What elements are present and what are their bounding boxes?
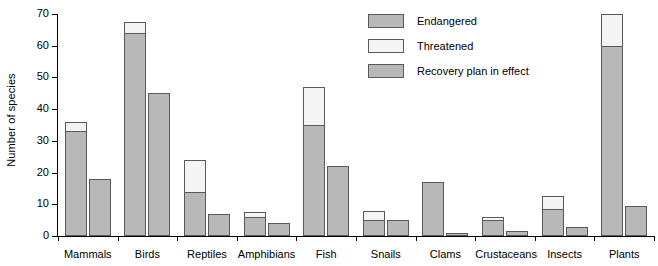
bar-recovery-plan-clams [446,233,468,236]
bar-recovery-plan-plants [625,206,647,236]
bar-recovery-plan-amphibians [268,223,290,236]
bar-segment-threatened [483,218,503,221]
y-tick-mark [52,204,57,205]
x-tick-mark [416,236,417,241]
bar-endangered-threatened-crustaceans [482,217,504,236]
bar-recovery-plan-snails [387,220,409,236]
x-tick-mark [118,236,119,241]
x-tick-mark [177,236,178,241]
bar-segment-threatened [364,212,384,222]
x-axis-label-mammals: Mammals [58,248,118,260]
bar-segment-threatened [185,161,205,193]
y-tick-label: 70 [9,7,49,19]
x-axis-label-amphibians: Amphibians [237,248,297,260]
bar-group-plants [594,14,654,236]
bar-segment-threatened [125,23,145,34]
legend-label: Recovery plan in effect [417,65,529,77]
y-tick-label: 40 [9,102,49,114]
x-axis-label-insects: Insects [535,248,595,260]
y-tick-mark [52,141,57,142]
bar-endangered-threatened-fish [303,87,325,236]
x-tick-mark [594,236,595,241]
legend-item-2: Recovery plan in effect [368,58,529,83]
legend-item-1: Threatened [368,33,529,58]
legend-swatch-icon [368,39,404,53]
legend-label: Endangered [417,15,477,27]
bar-group-fish [296,14,356,236]
bar-recovery-plan-reptiles [208,214,230,236]
bar-endangered-threatened-plants [601,14,623,236]
x-axis-label-clams: Clams [416,248,476,260]
bar-group-birds [118,14,178,236]
legend-item-0: Endangered [368,8,529,33]
y-tick-label: 20 [9,166,49,178]
y-tick-label: 0 [9,229,49,241]
plot-area: 010203040506070 MammalsBirdsReptilesAmph… [58,14,654,236]
x-tick-mark [535,236,536,241]
bar-segment-threatened [602,15,622,47]
x-tick-mark [475,236,476,241]
y-tick-label: 50 [9,70,49,82]
bar-endangered-threatened-birds [124,22,146,236]
y-tick-mark [52,77,57,78]
legend-swatch-icon [368,64,404,78]
bar-group-insects [535,14,595,236]
bar-recovery-plan-insects [566,227,588,237]
bar-endangered-threatened-clams [422,182,444,236]
x-axis-label-snails: Snails [356,248,416,260]
bar-recovery-plan-mammals [89,179,111,236]
bar-segment-threatened [543,197,563,210]
x-tick-mark [654,236,655,241]
bar-endangered-threatened-snails [363,211,385,236]
bar-recovery-plan-birds [148,93,170,236]
x-axis-label-fish: Fish [296,248,356,260]
bar-recovery-plan-crustaceans [506,231,528,236]
bar-endangered-threatened-insects [542,196,564,236]
y-axis-title-text: Number of species [5,73,17,166]
bar-segment-threatened [66,123,86,133]
x-axis-label-crustaceans: Crustaceans [475,248,535,260]
bar-group-reptiles [177,14,237,236]
legend-label: Threatened [417,40,473,52]
bar-endangered-threatened-amphibians [244,212,266,236]
x-axis-label-birds: Birds [118,248,178,260]
bar-segment-threatened [304,88,324,126]
y-tick-mark [52,46,57,47]
bar-group-amphibians [237,14,297,236]
x-tick-mark [237,236,238,241]
bar-segment-threatened [245,213,265,218]
y-tick-label: 60 [9,39,49,51]
y-tick-mark [52,236,57,237]
species-status-bar-chart: Number of species 010203040506070 Mammal… [0,0,658,266]
x-tick-mark [296,236,297,241]
y-tick-label: 30 [9,134,49,146]
legend-swatch-icon [368,14,404,28]
x-axis-label-reptiles: Reptiles [177,248,237,260]
chart-legend: EndangeredThreatenedRecovery plan in eff… [368,8,529,83]
x-axis-label-plants: Plants [594,248,654,260]
y-tick-label: 10 [9,197,49,209]
bar-recovery-plan-fish [327,166,349,236]
x-tick-mark [356,236,357,241]
y-tick-mark [52,173,57,174]
y-tick-mark [52,109,57,110]
bar-endangered-threatened-mammals [65,122,87,236]
y-tick-mark [52,14,57,15]
x-tick-mark [58,236,59,241]
bar-group-mammals [58,14,118,236]
bar-endangered-threatened-reptiles [184,160,206,236]
